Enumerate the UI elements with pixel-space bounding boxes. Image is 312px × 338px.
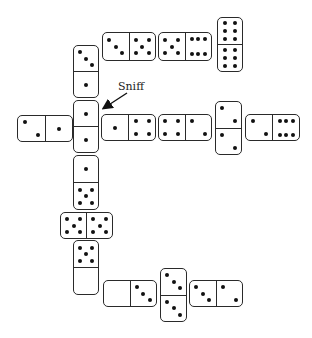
- pip-icon: [223, 29, 227, 33]
- sniff-annotation-label: Sniff: [118, 80, 144, 93]
- pip-icon: [91, 230, 95, 234]
- domino-half-3: [161, 295, 186, 322]
- domino-half-5: [74, 241, 98, 267]
- pip-icon: [104, 217, 108, 221]
- pip-icon: [72, 224, 76, 228]
- domino-half-1: [74, 126, 98, 152]
- pip-icon: [134, 51, 138, 55]
- pip-icon: [57, 127, 61, 131]
- pip-icon: [170, 45, 174, 49]
- pip-icon: [221, 285, 225, 289]
- domino-3-1[interactable]: [73, 45, 99, 98]
- pip-icon: [176, 132, 180, 136]
- domino-half-3: [190, 281, 216, 306]
- pip-icon: [78, 246, 82, 250]
- pip-icon: [196, 52, 200, 56]
- pip-icon: [78, 230, 82, 234]
- pip-icon: [203, 37, 207, 41]
- pip-icon: [284, 119, 288, 123]
- domino-5-0[interactable]: [73, 240, 99, 295]
- pip-icon: [65, 217, 69, 221]
- pip-icon: [233, 119, 237, 123]
- pip-icon: [233, 48, 237, 52]
- pip-icon: [251, 119, 255, 123]
- domino-half-1: [74, 71, 98, 97]
- pip-icon: [114, 45, 118, 49]
- domino-half-5: [74, 182, 98, 209]
- pip-icon: [90, 63, 94, 67]
- domino-3-2[interactable]: [189, 280, 243, 307]
- pip-icon: [163, 51, 167, 55]
- domino-half-6: [272, 115, 299, 140]
- domino-half-1: [45, 116, 73, 141]
- domino-half-1: [102, 115, 128, 140]
- domino-half-2: [216, 102, 241, 128]
- pip-icon: [163, 119, 167, 123]
- pip-icon: [207, 298, 211, 302]
- domino-half-4: [128, 115, 155, 140]
- pip-icon: [91, 217, 95, 221]
- pip-icon: [190, 119, 194, 123]
- pip-icon: [190, 52, 194, 56]
- pip-icon: [148, 298, 152, 302]
- pip-icon: [233, 64, 237, 68]
- pip-icon: [78, 188, 82, 192]
- domino-1-1[interactable]: [73, 100, 99, 153]
- pip-icon: [120, 51, 124, 55]
- pip-icon: [196, 37, 200, 41]
- pip-icon: [98, 224, 102, 228]
- pip-icon: [233, 146, 237, 150]
- domino-4-2[interactable]: [158, 114, 212, 141]
- pip-icon: [90, 188, 94, 192]
- pip-icon: [147, 119, 151, 123]
- domino-half-5: [159, 33, 185, 60]
- domino-6-6[interactable]: [217, 17, 243, 72]
- pip-icon: [223, 21, 227, 25]
- domino-1-4[interactable]: [101, 114, 156, 141]
- pip-icon: [134, 132, 138, 136]
- pip-icon: [291, 133, 295, 137]
- pip-icon: [84, 112, 88, 116]
- domino-half-3: [103, 33, 129, 60]
- pip-icon: [233, 56, 237, 60]
- pip-icon: [84, 57, 88, 61]
- domino-3-5[interactable]: [102, 32, 156, 61]
- pip-icon: [113, 126, 117, 130]
- pip-icon: [172, 280, 176, 284]
- pip-icon: [220, 133, 224, 137]
- domino-half-2: [246, 115, 272, 140]
- domino-board: Sniff: [0, 0, 312, 338]
- domino-5-5[interactable]: [60, 212, 113, 239]
- domino-half-1: [74, 156, 98, 182]
- domino-3-3[interactable]: [160, 268, 187, 322]
- pip-icon: [178, 313, 182, 317]
- domino-2-6[interactable]: [245, 114, 300, 141]
- pip-icon: [84, 138, 88, 142]
- pip-icon: [220, 106, 224, 110]
- domino-half-5: [61, 213, 86, 238]
- domino-half-5: [86, 213, 112, 238]
- pip-icon: [90, 246, 94, 250]
- pip-icon: [36, 133, 40, 137]
- pip-icon: [264, 132, 268, 136]
- pip-icon: [278, 133, 282, 137]
- pip-icon: [135, 285, 139, 289]
- domino-half-0: [74, 267, 98, 294]
- domino-2-1[interactable]: [17, 115, 73, 142]
- pip-icon: [134, 119, 138, 123]
- pip-icon: [147, 132, 151, 136]
- pip-icon: [78, 217, 82, 221]
- pip-icon: [107, 38, 111, 42]
- pip-icon: [141, 292, 145, 296]
- domino-half-5: [129, 33, 156, 60]
- domino-2-2[interactable]: [215, 101, 242, 155]
- pip-icon: [140, 45, 144, 49]
- pip-icon: [278, 119, 282, 123]
- domino-1-5[interactable]: [73, 155, 99, 210]
- pip-icon: [223, 37, 227, 41]
- domino-5-6[interactable]: [158, 32, 212, 61]
- domino-0-3[interactable]: [103, 280, 157, 307]
- pip-icon: [223, 56, 227, 60]
- pip-icon: [176, 119, 180, 123]
- pip-icon: [176, 51, 180, 55]
